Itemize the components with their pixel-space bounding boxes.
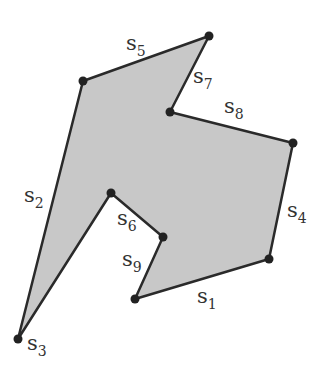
vertex-point bbox=[205, 32, 214, 41]
vertex-point bbox=[289, 139, 298, 148]
vertex-point bbox=[131, 295, 140, 304]
vertex-point bbox=[166, 108, 175, 117]
side-label-s4: s4 bbox=[287, 198, 307, 226]
polygon-diagram: s1s2s3s4s5s6s7s8s9 bbox=[0, 0, 326, 366]
polygon-shape bbox=[18, 36, 293, 339]
vertex-point bbox=[159, 233, 168, 242]
side-label-s1: s1 bbox=[197, 284, 217, 312]
vertex-point bbox=[107, 189, 116, 198]
side-label-s2: s2 bbox=[24, 183, 44, 211]
side-label-s5: s5 bbox=[126, 31, 146, 59]
vertex-point bbox=[265, 255, 274, 264]
side-label-s9: s9 bbox=[122, 247, 142, 275]
vertex-point bbox=[79, 77, 88, 86]
vertex-point bbox=[14, 335, 23, 344]
side-label-s7: s7 bbox=[193, 64, 213, 92]
side-label-s3: s3 bbox=[27, 331, 47, 359]
side-label-s8: s8 bbox=[224, 94, 244, 122]
